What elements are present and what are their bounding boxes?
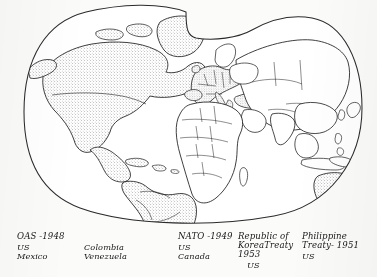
member-list-korea: US: [238, 261, 298, 270]
region-tasmania: [330, 213, 339, 220]
treaty-column-nato: NATO -1949 US Canada: [178, 232, 236, 261]
treaty-title-korea: Republic of KoreaTreaty 1953: [238, 232, 298, 259]
treaty-column-oas: OAS -1948 US Mexico Colombia Venezuela: [17, 232, 177, 261]
member-list-philippine: US: [302, 252, 376, 261]
scanned-textbook-page: OAS -1948 US Mexico Colombia Venezuela N…: [0, 0, 377, 277]
region-new-zealand: [352, 211, 362, 223]
member-item: US: [302, 252, 376, 261]
region-puerto-rico: [171, 170, 179, 174]
treaty-title-philippine: Philippine Treaty- 1951: [302, 232, 376, 250]
region-eastern-europe: [230, 63, 258, 84]
region-australia: [314, 173, 361, 211]
member-item: Canada: [178, 252, 236, 261]
member-item: Mexico: [17, 252, 84, 261]
treaty-title-oas: OAS -1948: [17, 232, 177, 241]
member-item: Venezuela: [84, 252, 127, 261]
map-body: [0, 0, 377, 232]
treaty-legend-table: OAS -1948 US Mexico Colombia Venezuela N…: [0, 232, 377, 277]
region-arctic-islands: [96, 29, 124, 40]
world-map-figure: [0, 0, 377, 232]
region-philippines-south: [337, 148, 344, 156]
world-map-svg: [0, 0, 377, 232]
member-item: US: [247, 261, 298, 270]
member-list-nato: US Canada: [178, 243, 236, 261]
member-lists-oas: US Mexico Colombia Venezuela: [17, 243, 177, 261]
treaty-column-korea: Republic of KoreaTreaty 1953 US: [238, 232, 298, 270]
treaty-title-nato: NATO -1949: [178, 232, 236, 241]
region-philippines: [335, 133, 342, 143]
member-list-oas-left: US Mexico: [17, 243, 84, 261]
member-list-oas-right: Colombia Venezuela: [84, 243, 127, 261]
treaty-column-philippine: Philippine Treaty- 1951 US: [302, 232, 376, 261]
